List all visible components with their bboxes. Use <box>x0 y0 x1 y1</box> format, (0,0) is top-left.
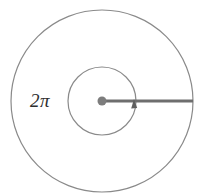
angle-label-2pi: 2π <box>30 90 50 112</box>
figure-canvas: 2π <box>0 0 197 194</box>
center-dot <box>98 97 107 106</box>
